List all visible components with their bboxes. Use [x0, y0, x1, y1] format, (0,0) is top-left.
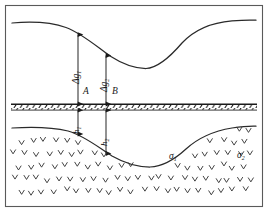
depth-h1-label: h1 — [72, 127, 82, 134]
point-b-label: B — [112, 87, 118, 97]
ground-hatch-band — [11, 104, 257, 109]
density-sigma1-label: σ1 — [169, 152, 177, 163]
density-sigma2-label: σ2 — [237, 151, 245, 162]
depth-h2-label: h2 — [100, 139, 110, 146]
delta-g-2-label: Δg2 — [100, 79, 111, 92]
figure-container: Δg1 Δg2 A B h1 h2 σ1 σ2 — [0, 0, 268, 212]
figure-canvas — [0, 0, 268, 212]
delta-g-1-label: Δg1 — [72, 71, 83, 84]
point-a-label: A — [83, 87, 89, 97]
